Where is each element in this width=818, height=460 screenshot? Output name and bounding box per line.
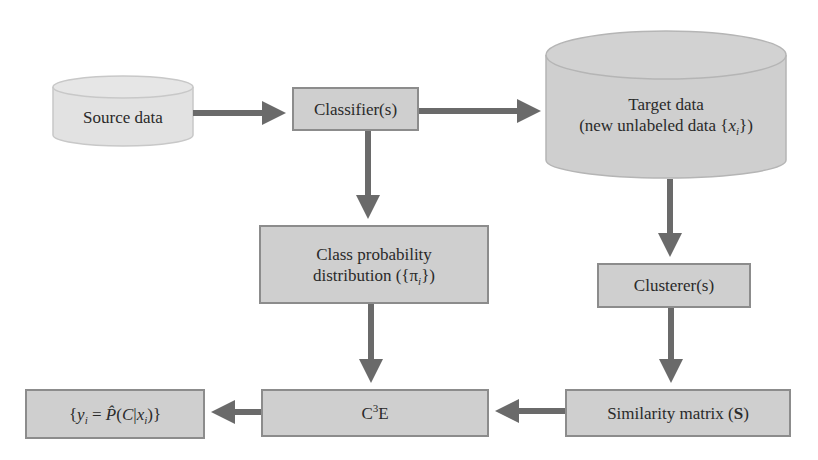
target-data-node: Target data (new unlabeled data {xi}) [546,85,786,145]
similarity-matrix-label: Similarity matrix (S) [607,403,749,424]
classifier-label: Classifier(s) [314,99,397,120]
source-data-node: Source data [53,98,193,136]
c3e-node: C3E [261,389,489,437]
clusterer-node: Clusterer(s) [597,263,751,308]
class-probability-node: Class probability distribution ({πi}) [259,225,489,304]
class-probability-subtitle: distribution ({πi}) [313,265,435,286]
similarity-matrix-node: Similarity matrix (S) [565,389,791,437]
source-data-label: Source data [83,107,163,128]
target-data-title: Target data [628,94,703,115]
output-node: {yi = P̂(C|xi)} [25,389,205,439]
class-probability-title: Class probability [316,244,432,265]
output-formula: {yi = P̂(C|xi)} [69,404,161,425]
classifier-node: Classifier(s) [292,87,419,131]
target-data-subtitle: (new unlabeled data {xi}) [579,115,753,136]
c3e-label: C3E [361,403,388,424]
clusterer-label: Clusterer(s) [634,275,714,296]
